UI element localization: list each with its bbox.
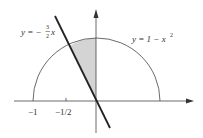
diagram: −1 −1/2 y = − 3 2 x y = 1 − x 2 [0, 0, 203, 138]
tick-label-minus-half: −1/2 [55, 107, 72, 117]
line-label-den: 2 [46, 33, 49, 39]
line-label-num: 3 [46, 24, 49, 30]
y-axis-arrow-icon [94, 9, 99, 18]
tick-label-minus-one: −1 [28, 107, 38, 117]
curve [33, 38, 160, 101]
line-label-prefix: y = − [20, 27, 42, 37]
line-label-var: x [50, 27, 55, 37]
curve-label: y = 1 − x [131, 34, 166, 44]
x-axis-arrow-icon [186, 99, 194, 104]
curve-label-exponent: 2 [170, 32, 173, 38]
